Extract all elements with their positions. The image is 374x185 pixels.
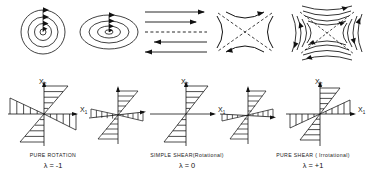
asymptote-lines (218, 13, 272, 51)
diagram-concentric-ellipses (78, 7, 140, 57)
velocity-profile-q2 (10, 98, 44, 114)
profile-intermediate-left (88, 84, 150, 146)
profile-pure-rotation: X2 X1 (6, 78, 90, 148)
axis-label-x1: X1 (358, 106, 366, 115)
axis-arrowheads (116, 86, 146, 114)
diagram-dense-hyperbolas (288, 2, 366, 64)
velocity-profile-q3 (20, 114, 44, 142)
profile-pure-shear: X2 X1 (284, 78, 372, 148)
velocity-profile-upper (186, 86, 208, 114)
lambda-symbol-1: λ (44, 161, 48, 170)
velocity-profile-q4 (44, 114, 76, 130)
caption-lambda-pure-rotation: λ = -1 (0, 161, 106, 170)
axis-label-x2: X2 (181, 78, 189, 87)
diagram-concentric-circles (12, 3, 74, 61)
axis-label-x2: X2 (39, 78, 47, 87)
caption-lambda-simple-shear: λ = 0 (122, 161, 252, 170)
asymptote-lines (300, 12, 354, 54)
axis-label-x2: X2 (315, 78, 323, 87)
diagram-parallel-lines (144, 8, 208, 56)
caption-simple-shear: SIMPLE SHEAR(Rotational) λ = 0 (122, 152, 252, 170)
lambda-value-3: = +1 (308, 161, 323, 170)
lambda-symbol-2: λ (179, 161, 183, 170)
profile-intermediate-right (218, 84, 280, 146)
diagram-open-hyperbolas (212, 6, 278, 58)
velocity-profile-q1-vertical (320, 88, 340, 114)
velocity-profile-q2-horizontal (290, 114, 320, 128)
caption-pure-shear: PURE SHEAR ( Irrotational) λ = +1 (252, 152, 374, 170)
lambda-value-1: = -1 (49, 161, 62, 170)
velocity-profile-q4-horizontal (320, 100, 350, 114)
caption-pure-rotation: PURE ROTATION λ = -1 (0, 152, 106, 170)
flow-regime-figure: X2 X1 (0, 0, 374, 185)
velocity-profile-q3-vertical (300, 114, 320, 140)
axes (89, 88, 144, 144)
velocity-profile-q1 (118, 91, 138, 115)
caption-name-simple-shear: SIMPLE SHEAR(Rotational) (122, 152, 252, 159)
axis-label-x1: X1 (80, 106, 88, 115)
velocity-profile-q3 (98, 115, 118, 139)
lambda-value-2: = 0 (185, 161, 195, 170)
flow-direction-arrowheads (109, 12, 115, 32)
caption-name-pure-rotation: PURE ROTATION (0, 152, 106, 159)
caption-lambda-pure-shear: λ = +1 (252, 161, 374, 170)
lambda-symbol-3: λ (303, 161, 307, 170)
velocity-profile-lower (164, 114, 186, 142)
velocity-profile-q1 (44, 86, 68, 114)
caption-name-pure-shear: PURE SHEAR ( Irrotational) (252, 152, 374, 159)
